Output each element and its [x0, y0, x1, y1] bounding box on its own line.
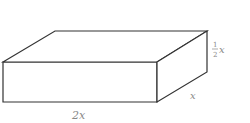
front-face: [3, 62, 157, 102]
height-denominator: 2: [213, 51, 217, 59]
length-label: 2x: [71, 109, 86, 122]
height-label: 1 2 x: [212, 41, 225, 59]
height-numerator: 1: [213, 41, 217, 49]
box-diagram: 2x x 1 2 x: [0, 0, 250, 123]
height-variable: x: [219, 44, 225, 55]
depth-label: x: [190, 90, 196, 101]
